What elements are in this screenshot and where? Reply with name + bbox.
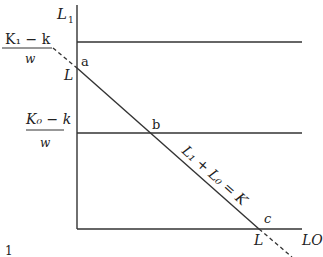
fraction-k1-numerator: K₁ − k: [5, 31, 51, 47]
y-axis-label: L: [56, 5, 67, 23]
x-axis-L-mark: L: [253, 232, 263, 248]
fraction-k0-numerator: K₀ − k: [25, 111, 71, 127]
fraction-k0-denominator: w: [40, 136, 51, 150]
y-axis-label-subscript: 1: [68, 15, 74, 25]
budget-line-dashed-upper: [53, 48, 77, 68]
x-axis-label: LO: [301, 232, 323, 248]
point-a-label: a: [81, 54, 89, 69]
fraction-k1-denominator: w: [25, 52, 36, 66]
budget-line: [77, 68, 259, 229]
point-c-label: c: [264, 211, 272, 226]
budget-line-dashed-lower: [259, 229, 292, 257]
footer-number: 1: [5, 244, 13, 257]
budget-line-equation: L₁ + L₀ = K: [178, 142, 252, 210]
y-axis-L-mark: L: [63, 67, 73, 83]
point-b-label: b: [152, 117, 160, 132]
diagram-canvas: L 1 K₁ − k w K₀ − k w a L b c L LO L₁ + …: [0, 0, 323, 257]
